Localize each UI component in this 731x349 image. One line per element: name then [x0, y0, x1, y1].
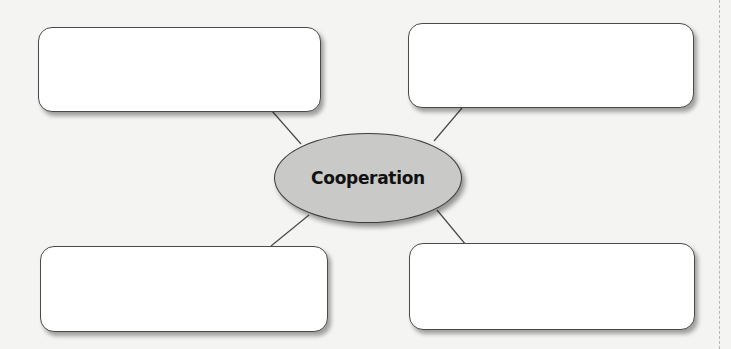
concept-web-diagram: Cooperation: [0, 0, 731, 349]
center-concept-ellipse: Cooperation: [274, 133, 462, 223]
connector-bottom-left: [271, 215, 309, 246]
page-edge-dashed-line: [719, 0, 720, 349]
answer-box-top-right[interactable]: [408, 23, 694, 108]
connector-top-left: [272, 111, 301, 144]
answer-box-bottom-left-text[interactable]: [41, 247, 327, 331]
answer-box-top-right-text[interactable]: [409, 24, 693, 107]
connector-bottom-right: [437, 210, 466, 245]
answer-box-bottom-right-text[interactable]: [410, 244, 694, 329]
answer-box-bottom-right[interactable]: [409, 243, 695, 330]
center-concept-label: Cooperation: [311, 168, 425, 188]
answer-box-top-left-text[interactable]: [39, 28, 320, 111]
connector-top-right: [434, 108, 462, 141]
answer-box-bottom-left[interactable]: [40, 246, 328, 332]
answer-box-top-left[interactable]: [38, 27, 321, 112]
